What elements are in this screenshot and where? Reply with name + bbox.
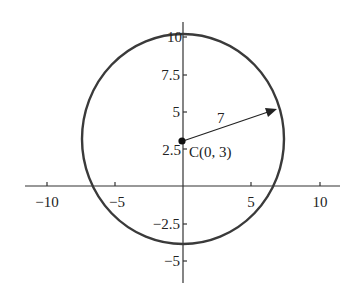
x-tick-label: −5 — [109, 194, 125, 210]
radius-label: 7 — [217, 110, 225, 126]
y-tick-label: 10 — [167, 29, 182, 45]
y-ticks — [183, 37, 187, 261]
y-tick-label: −5 — [164, 253, 180, 269]
arrowhead-icon — [265, 108, 277, 117]
y-tick-label: 5 — [173, 104, 181, 120]
x-tick-label: −10 — [35, 194, 58, 210]
x-tick-label: 10 — [313, 194, 328, 210]
y-tick-label: 7.5 — [161, 67, 180, 83]
diagram-canvas: −10 −5 5 10 10 7.5 5 2.5 −2.5 −5 C(0, 3)… — [0, 0, 363, 295]
radius-arrow — [183, 112, 268, 141]
x-tick-label: 5 — [247, 194, 255, 210]
circle-diagram: −10 −5 5 10 10 7.5 5 2.5 −2.5 −5 C(0, 3)… — [0, 0, 363, 295]
y-tick-label: 2.5 — [162, 142, 181, 158]
y-tick-label: −2.5 — [153, 216, 180, 232]
center-label: C(0, 3) — [189, 144, 232, 161]
